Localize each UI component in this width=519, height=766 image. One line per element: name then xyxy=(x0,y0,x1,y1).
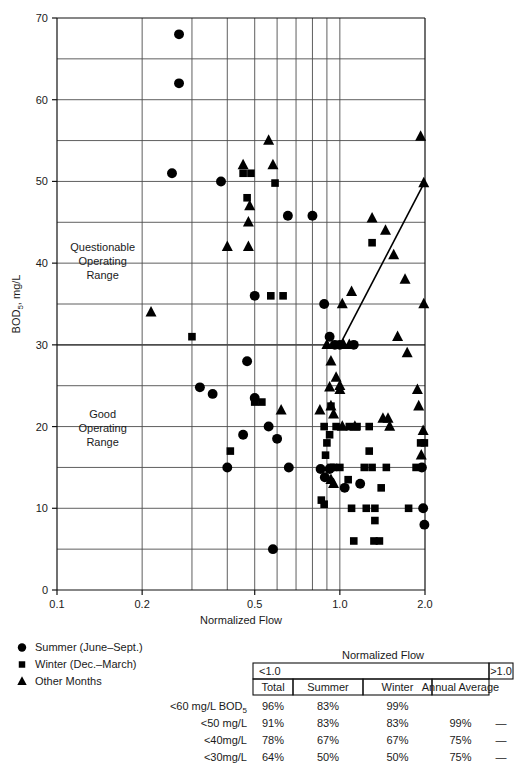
data-point-square xyxy=(371,517,379,525)
data-point-circle xyxy=(283,211,293,221)
x-tick-label: 0.2 xyxy=(134,598,149,610)
table-cell-value: 75% xyxy=(449,751,471,763)
table-cell-value: 91% xyxy=(262,717,284,729)
data-point-circle xyxy=(195,382,205,392)
table-cell-value: 78% xyxy=(262,734,284,746)
table-cell-value: 67% xyxy=(386,734,408,746)
legend-label: Other Months xyxy=(35,675,102,687)
table-cell-value: 83% xyxy=(317,700,339,712)
data-point-square xyxy=(320,423,328,431)
data-point-circle xyxy=(216,176,226,186)
data-point-circle xyxy=(242,356,252,366)
data-point-square xyxy=(368,239,376,247)
data-point-square xyxy=(421,439,429,447)
data-point-square xyxy=(251,398,259,406)
data-point-square xyxy=(360,464,368,472)
table-cell-value: — xyxy=(496,717,507,729)
data-point-circle xyxy=(316,464,326,474)
data-point-circle xyxy=(264,422,274,432)
x-axis-title: Normalized Flow xyxy=(200,614,282,626)
table-super-header: Normalized Flow xyxy=(342,649,424,661)
y-tick-label: 40 xyxy=(36,257,48,269)
data-point-square xyxy=(362,504,370,512)
data-point-square xyxy=(227,447,235,455)
y-tick-label: 0 xyxy=(42,584,48,596)
table-cell-value: 50% xyxy=(317,751,339,763)
data-point-square xyxy=(320,500,328,508)
table-column-header: Total xyxy=(261,681,284,693)
data-point-circle xyxy=(167,168,177,178)
data-point-square xyxy=(348,504,356,512)
table-cell-value: 83% xyxy=(317,717,339,729)
x-tick-label: 0.1 xyxy=(49,598,64,610)
legend-marker-square xyxy=(19,661,25,667)
data-point-square xyxy=(376,537,384,545)
data-point-circle xyxy=(250,291,260,301)
data-point-square xyxy=(344,476,352,484)
data-point-circle xyxy=(319,299,329,309)
data-point-circle xyxy=(174,78,184,88)
data-point-circle xyxy=(307,211,317,221)
table-group-header-gt: >1.0 xyxy=(490,665,512,677)
data-point-circle xyxy=(174,29,184,39)
table-row-label: <50 mg/L xyxy=(201,717,247,729)
y-tick-label: 50 xyxy=(36,175,48,187)
data-point-circle xyxy=(222,462,232,472)
x-tick-label: 2.0 xyxy=(417,598,432,610)
figure-root: 0102030405060700.10.20.51.02.0 Questiona… xyxy=(0,0,519,766)
data-point-circle xyxy=(268,544,278,554)
y-tick-label: 10 xyxy=(36,502,48,514)
table-cell-value: 75% xyxy=(449,734,471,746)
data-point-circle xyxy=(208,389,218,399)
data-point-circle xyxy=(284,462,294,472)
data-point-circle xyxy=(355,479,365,489)
table-column-header: Winter xyxy=(382,681,414,693)
data-point-square xyxy=(383,464,391,472)
data-point-square xyxy=(377,484,385,492)
legend-label: Summer (June–Sept.) xyxy=(35,641,143,653)
data-point-circle xyxy=(340,483,350,493)
range-annotation-line: Range xyxy=(86,436,118,448)
data-point-square xyxy=(405,504,413,512)
table-cell-value: 50% xyxy=(386,751,408,763)
y-tick-label: 20 xyxy=(36,421,48,433)
chart-svg: 0102030405060700.10.20.51.02.0 Questiona… xyxy=(0,0,519,766)
table-cell-value: 96% xyxy=(262,700,284,712)
data-point-circle xyxy=(419,520,429,530)
data-point-square xyxy=(258,398,266,406)
table-column-header: Summer xyxy=(307,681,349,693)
table-cell-value: — xyxy=(496,751,507,763)
data-point-square xyxy=(350,537,358,545)
data-point-square xyxy=(322,451,330,459)
data-point-square xyxy=(365,423,373,431)
data-point-square xyxy=(247,169,255,177)
y-tick-label: 30 xyxy=(36,339,48,351)
y-tick-label: 60 xyxy=(36,94,48,106)
data-point-circle xyxy=(238,430,248,440)
table-cell-value: — xyxy=(496,734,507,746)
table-column-header: Annual Average xyxy=(422,681,499,693)
table-group-header-lt: <1.0 xyxy=(259,665,281,677)
table-cell-value: 83% xyxy=(386,717,408,729)
data-point-square xyxy=(365,447,373,455)
legend-label: Winter (Dec.–March) xyxy=(35,658,136,670)
range-annotation-line: Range xyxy=(86,269,118,281)
data-point-square xyxy=(271,179,279,187)
data-point-circle xyxy=(272,434,282,444)
data-point-square xyxy=(279,292,287,300)
data-point-square xyxy=(326,431,334,439)
range-annotation-line: Operating xyxy=(78,255,126,267)
data-point-square xyxy=(239,169,247,177)
data-point-square xyxy=(323,439,331,447)
data-point-square xyxy=(330,464,338,472)
legend-marker-circle xyxy=(18,643,26,651)
table-row-label: <40mg/L xyxy=(204,734,247,746)
data-point-square xyxy=(368,464,376,472)
data-point-square xyxy=(412,464,420,472)
range-annotation-line: Questionable xyxy=(70,241,135,253)
data-point-square xyxy=(371,504,379,512)
y-tick-label: 70 xyxy=(36,12,48,24)
data-point-square xyxy=(267,292,275,300)
table-cell-value: 99% xyxy=(449,717,471,729)
range-annotation-line: Good xyxy=(89,408,116,420)
